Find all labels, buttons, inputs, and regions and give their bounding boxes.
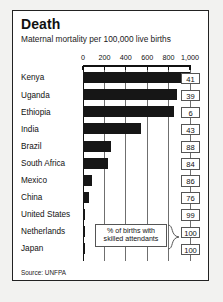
bar <box>83 123 141 134</box>
bar-row <box>21 138 204 155</box>
category-label: Mexico <box>21 176 47 185</box>
bar <box>83 158 108 169</box>
bar <box>83 141 111 152</box>
bar-row <box>21 190 204 207</box>
source-note: Source: UNFPA <box>21 269 66 276</box>
value-box: 86 <box>181 175 200 187</box>
x-axis-tick-labels: 02004006008001,000 <box>21 53 204 64</box>
value-box: 84 <box>181 158 200 170</box>
value-box: 100 <box>181 227 200 239</box>
chart-card-inner: Death Maternal mortality per 100,000 liv… <box>13 11 208 280</box>
bar <box>83 175 92 186</box>
bar <box>83 226 85 237</box>
x-tick-label: 200 <box>98 53 110 62</box>
x-tick-label: 400 <box>120 53 132 62</box>
value-box: 43 <box>181 124 200 136</box>
category-label: Japan <box>21 244 43 253</box>
bar-row <box>21 121 204 138</box>
category-label: India <box>21 125 39 134</box>
bar-row <box>21 173 204 190</box>
legend-line-2: skilled attendants <box>98 235 164 244</box>
bar-row <box>21 70 204 87</box>
chart-page: Death Maternal mortality per 100,000 liv… <box>0 0 223 302</box>
value-box: 100 <box>181 244 200 256</box>
x-tick-label: 1,000 <box>181 53 199 62</box>
value-box: 88 <box>181 141 200 153</box>
category-label: China <box>21 193 42 202</box>
category-label: Netherlands <box>21 227 65 236</box>
x-tick-label: 0 <box>81 53 85 62</box>
value-box: 39 <box>181 90 200 102</box>
legend-callout: % of births with skilled attendants <box>95 224 167 247</box>
category-label: Ethiopia <box>21 108 51 117</box>
bar <box>83 243 85 254</box>
x-tick-label: 600 <box>141 53 153 62</box>
chart-card: Death Maternal mortality per 100,000 liv… <box>12 10 209 281</box>
bar <box>83 209 85 220</box>
value-box: 6 <box>181 107 200 119</box>
value-box: 76 <box>181 192 200 204</box>
bar <box>83 72 190 83</box>
category-label: United States <box>21 210 70 219</box>
category-label: South Africa <box>21 159 65 168</box>
value-box: 99 <box>181 209 200 221</box>
chart-title: Death <box>21 17 202 32</box>
chart-subtitle: Maternal mortality per 100,000 live birt… <box>21 34 202 45</box>
x-tick-label: 800 <box>163 53 175 62</box>
category-label: Brazil <box>21 142 41 151</box>
legend-line-1: % of births with <box>98 227 164 236</box>
plot-area: 02004006008001,000 KenyaUgandaEthiopiaIn… <box>21 53 204 276</box>
x-axis-line <box>83 65 191 67</box>
bar <box>83 89 177 100</box>
bar <box>83 192 89 203</box>
value-box: 41 <box>181 73 200 85</box>
category-label: Uganda <box>21 91 50 100</box>
bar <box>83 106 174 117</box>
category-label: Kenya <box>21 73 44 82</box>
